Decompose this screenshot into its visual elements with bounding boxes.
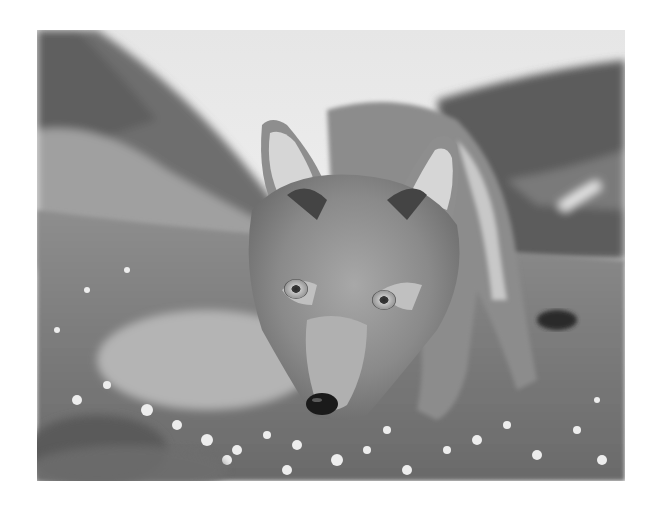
fox-left-eye: [284, 279, 308, 299]
fox-right-eye: [372, 290, 396, 310]
fox-photograph: [37, 30, 625, 481]
fox-scene: [37, 30, 625, 481]
fox-nose: [306, 393, 338, 415]
